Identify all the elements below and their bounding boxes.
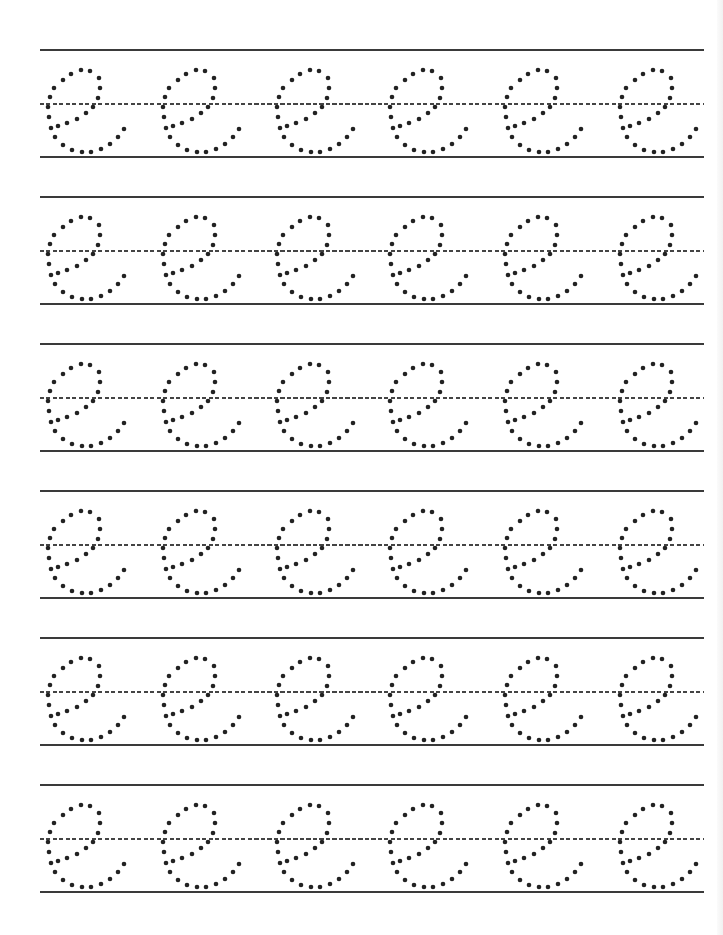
dotted-letter-e-icon [620,344,700,452]
worksheet-letter: e [0,0,1,1]
midline-dashed [40,103,704,105]
top-line [40,490,704,492]
dotted-letter-e-icon [277,491,357,599]
tracing-letter-e [48,197,128,305]
tracing-letter-e [277,638,357,746]
tracing-letter-e [620,491,700,599]
tracing-letter-e [163,785,243,893]
top-line [40,49,704,51]
midline-dashed [40,544,704,546]
dotted-letter-e-icon [620,785,700,893]
tracing-letter-e [48,785,128,893]
tracing-letter-e [390,50,470,158]
dotted-letter-e-icon [390,785,470,893]
practice-row [0,491,723,599]
top-line [40,196,704,198]
midline-dashed [40,397,704,399]
dotted-letter-e-icon [163,785,243,893]
dotted-letter-e-icon [505,638,585,746]
dotted-letter-e-icon [277,50,357,158]
tracing-letter-e [48,344,128,452]
dotted-letter-e-icon [620,491,700,599]
dotted-letter-e-icon [163,50,243,158]
tracing-letter-e [390,197,470,305]
tracing-letter-e [163,50,243,158]
tracing-letter-e [390,638,470,746]
tracing-letter-e [620,50,700,158]
practice-row [0,785,723,893]
handwriting-worksheet: e [0,0,723,935]
dotted-letter-e-icon [390,197,470,305]
tracing-letter-e [505,638,585,746]
dotted-letter-e-icon [48,491,128,599]
tracing-letter-e [505,197,585,305]
tracing-letter-e [277,344,357,452]
dotted-letter-e-icon [48,50,128,158]
practice-row [0,638,723,746]
baseline [40,744,704,746]
tracing-letter-e [277,197,357,305]
dotted-letter-e-icon [163,638,243,746]
dotted-letter-e-icon [505,491,585,599]
midline-dashed [40,691,704,693]
dotted-letter-e-icon [505,344,585,452]
dotted-letter-e-icon [48,344,128,452]
tracing-letter-e [163,638,243,746]
dotted-letter-e-icon [390,50,470,158]
dotted-letter-e-icon [505,197,585,305]
tracing-letter-e [505,785,585,893]
tracing-letter-e [620,197,700,305]
tracing-letter-e [620,785,700,893]
dotted-letter-e-icon [277,197,357,305]
dotted-letter-e-icon [48,197,128,305]
dotted-letter-e-icon [48,638,128,746]
dotted-letter-e-icon [163,197,243,305]
dotted-letter-e-icon [505,50,585,158]
tracing-letter-e [390,491,470,599]
tracing-letter-e [277,50,357,158]
dotted-letter-e-icon [277,638,357,746]
midline-dashed [40,838,704,840]
baseline [40,450,704,452]
dotted-letter-e-icon [277,344,357,452]
dotted-letter-e-icon [390,344,470,452]
tracing-letter-e [505,344,585,452]
baseline [40,303,704,305]
top-line [40,637,704,639]
tracing-letter-e [48,491,128,599]
tracing-letter-e [48,50,128,158]
tracing-letter-e [620,638,700,746]
dotted-letter-e-icon [277,785,357,893]
baseline [40,156,704,158]
tracing-letter-e [277,491,357,599]
dotted-letter-e-icon [620,50,700,158]
dotted-letter-e-icon [505,785,585,893]
top-line [40,343,704,345]
tracing-letter-e [163,197,243,305]
tracing-letter-e [505,50,585,158]
dotted-letter-e-icon [163,491,243,599]
dotted-letter-e-icon [48,785,128,893]
tracing-letter-e [163,491,243,599]
baseline [40,597,704,599]
tracing-letter-e [163,344,243,452]
tracing-letter-e [48,638,128,746]
practice-row [0,344,723,452]
dotted-letter-e-icon [620,197,700,305]
top-line [40,784,704,786]
tracing-letter-e [390,785,470,893]
dotted-letter-e-icon [390,491,470,599]
dotted-letter-e-icon [163,344,243,452]
tracing-letter-e [277,785,357,893]
baseline [40,891,704,893]
midline-dashed [40,250,704,252]
tracing-letter-e [390,344,470,452]
practice-row [0,50,723,158]
dotted-letter-e-icon [620,638,700,746]
practice-row [0,197,723,305]
tracing-letter-e [620,344,700,452]
dotted-letter-e-icon [390,638,470,746]
tracing-letter-e [505,491,585,599]
